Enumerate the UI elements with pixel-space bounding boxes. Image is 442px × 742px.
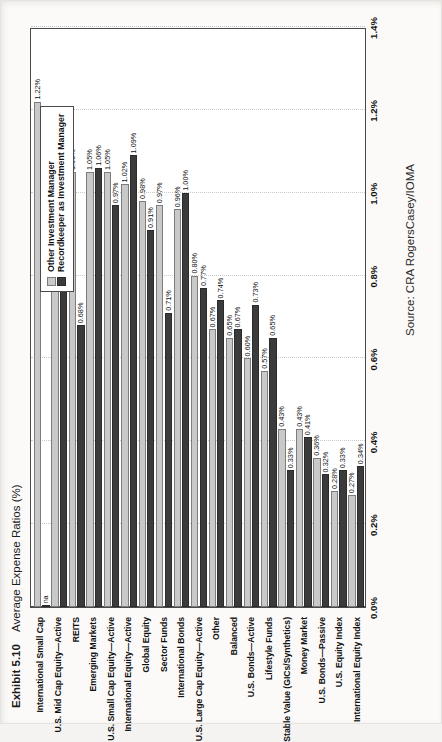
bar: 0.27% [348,29,355,607]
bar: 0.41% [304,29,311,607]
bar: 0.68% [77,29,84,607]
bar-rect [77,325,84,607]
bar-rect [252,305,259,607]
axis-tick-label: 0.4% [368,431,379,453]
bar-rect [156,205,163,607]
bar: 0.57% [261,29,268,607]
bar: 0.60% [244,29,251,607]
bar-rect [112,205,119,607]
category-label-text: U.S. Small Cap Equity—Active [107,617,116,741]
bar-rect [348,495,355,607]
bar-value-label: 0.34% [357,443,364,464]
bar-value-label: 0.27% [348,472,355,493]
category-label-13: Lifestyle Funds [261,612,279,724]
chart-bars: 1.22%na1.09%0.87%1.05%0.68%1.05%1.06%1.0… [31,29,365,607]
bar: 0.34% [357,29,364,607]
category-label-text: Balanced [230,617,239,655]
category-axis-labels: International Small CapU.S. Mid Cap Equi… [30,612,366,724]
bar-value-label: 0.57% [261,348,268,369]
axis-tick-label: 1.0% [368,183,379,205]
axis-tick-label: 1.2% [368,100,379,122]
bar-rect [182,193,189,607]
bar: 0.36% [313,29,320,607]
bar: 1.09% [130,29,137,607]
bar-group: 0.43%0.41% [295,29,312,607]
bar-rect [165,313,172,607]
bar-rect [104,172,111,607]
legend-swatch [57,277,66,286]
bar-group: 0.43%0.33% [278,29,295,607]
bar-rect [357,466,364,607]
category-label-10: Other [208,612,226,724]
bar-rect [139,201,146,607]
bar: 0.97% [112,29,119,607]
bar-rect [269,338,276,607]
category-label-text: U.S. Equity Index [335,617,344,687]
category-label-8: International Bonds [173,612,191,724]
category-label-text: U.S. Bonds—Passive [318,617,327,703]
bar-value-label: 0.71% [165,290,172,311]
bar-group: 0.27%0.34% [347,29,364,607]
category-label-text: International Bonds [177,617,186,698]
bar: 1.00% [182,29,189,607]
category-label-7: Sector Funds [155,612,173,724]
category-label-14: Stable Value (GICs/Synthetics) [278,612,296,724]
axis-tick-label: 0.2% [368,514,379,536]
bar-rect [209,329,216,607]
category-label-15: Money Market [296,612,314,724]
bar-value-label: 0.98% [139,178,146,199]
bar: 0.74% [217,29,224,607]
category-label-2: REITS [67,612,85,724]
bar: 0.67% [209,29,216,607]
bar-value-label: 0.67% [209,307,216,328]
bar-value-label: 0.36% [313,435,320,456]
bar-group: 0.80%0.77% [190,29,207,607]
bar-value-label: 0.77% [200,265,207,286]
category-label-text: Emerging Markets [89,617,98,692]
exhibit-title-text: Average Expense Ratios (%) [10,484,22,631]
bar: 1.06% [95,29,102,607]
bar: 0.91% [147,29,154,607]
bar-group: 0.60%0.73% [243,29,260,607]
bar-rect [200,288,207,607]
bar-rect [130,155,137,607]
bar-value-label: 1.05% [86,149,93,170]
axis-tick-label: 0.0% [368,597,379,619]
exhibit-number: Exhibit 5.10 [10,644,22,708]
bar: 1.05% [86,29,93,607]
bar-rect [261,371,268,607]
bar-rect [147,230,154,607]
bar-value-label: 0.28% [331,468,338,489]
bar-group: 0.57%0.65% [260,29,277,607]
bar-group: 1.05%1.06% [85,29,102,607]
bar-rect [121,184,128,607]
bar-value-label: 1.02% [121,162,128,183]
category-label-text: REITS [72,617,81,642]
bar-rect [42,605,49,607]
bar-value-label: 0.80% [191,253,198,274]
legend-swatch [47,277,56,286]
bar: 0.43% [296,29,303,607]
bar: 0.97% [156,29,163,607]
bar-rect [86,172,93,607]
axis-tick-label: 1.4% [368,17,379,39]
bar-group: 0.98%0.91% [138,29,155,607]
bar: 1.02% [121,29,128,607]
bar: 0.77% [200,29,207,607]
category-label-text: International Equity—Active [124,617,133,732]
bar-rect [234,329,241,607]
bar-rect [304,437,311,607]
legend-item-0: Other Investment Manager [47,114,56,286]
bar-value-label: 0.97% [156,182,163,203]
category-label-1: U.S. Mid Cap Equity—Active [50,612,68,724]
bar: 0.33% [339,29,346,607]
bar-value-label: 1.22% [34,79,41,100]
bar-rect [226,338,233,607]
category-label-11: Balanced [225,612,243,724]
bar-value-label: 1.05% [104,149,111,170]
bar-group: 0.67%0.74% [208,29,225,607]
axis-tick-label: 0.6% [368,349,379,371]
bar-value-label: 0.73% [252,282,259,303]
bar-value-label: 0.60% [244,336,251,357]
bar-value-label: 0.41% [304,414,311,435]
